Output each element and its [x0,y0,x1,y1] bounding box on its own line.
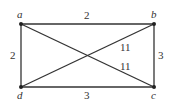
vertex-b [152,22,156,26]
weight-d-a: 2 [10,49,16,61]
vertex-label-d: d [17,89,23,101]
weight-b-c: 3 [158,49,164,61]
weight-b-d: 11 [120,41,131,53]
weight-a-b: 2 [84,9,90,21]
weight-a-c: 11 [120,60,131,72]
vertex-label-b: b [151,8,157,20]
weighted-graph-diagram: a b c d 2 3 3 2 11 11 [0,0,173,104]
vertex-a [19,22,23,26]
vertex-label-c: c [151,89,156,101]
vertex-label-a: a [17,8,23,20]
weight-c-d: 3 [84,89,90,101]
